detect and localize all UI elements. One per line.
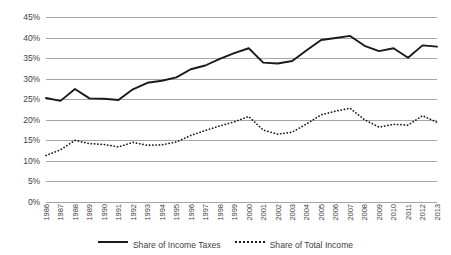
y-tick-label-35: 35%: [23, 54, 40, 63]
y-tick-label-20: 20%: [23, 116, 40, 125]
line-chart: 45%40%35%30%25%20%15%10%5%0% 19861987198…: [0, 0, 451, 255]
x-tick-label-1988: 1988: [72, 204, 80, 221]
legend-label: Share of Income Taxes: [133, 241, 221, 250]
x-tick-label-1996: 1996: [188, 204, 196, 221]
x-tick-label-2008: 2008: [361, 204, 369, 221]
x-tick-label-2006: 2006: [332, 204, 340, 221]
x-tick-label-1986: 1986: [43, 204, 51, 221]
series-line-share-of-income-taxes: [46, 36, 437, 101]
series-line-share-of-total-income: [46, 108, 437, 155]
y-tick-label-45: 45%: [23, 13, 40, 22]
x-tick-label-1993: 1993: [144, 204, 152, 221]
legend-label: Share of Total Income: [270, 241, 353, 250]
x-tick-label-2003: 2003: [289, 204, 297, 221]
x-axis-labels: 1986198719881989199019911992199319941995…: [46, 204, 437, 238]
x-tick-label-2009: 2009: [376, 204, 384, 221]
y-tick-label-10: 10%: [23, 157, 40, 166]
x-tick-label-2001: 2001: [260, 204, 268, 221]
solid-line-swatch-icon: [98, 241, 128, 252]
series-layer: [46, 17, 437, 202]
x-tick-label-1994: 1994: [159, 204, 167, 221]
x-tick-label-2004: 2004: [303, 204, 311, 221]
y-tick-label-0: 0%: [28, 198, 40, 207]
legend-item-share-of-total-income[interactable]: Share of Total Income: [235, 240, 353, 252]
x-tick-label-2010: 2010: [390, 204, 398, 221]
x-tick-label-1997: 1997: [202, 204, 210, 221]
x-tick-label-1998: 1998: [217, 204, 225, 221]
x-tick-label-1995: 1995: [173, 204, 181, 221]
x-tick-label-1991: 1991: [115, 204, 123, 221]
y-tick-label-25: 25%: [23, 95, 40, 104]
chart-legend: Share of Income TaxesShare of Total Inco…: [0, 236, 451, 255]
x-tick-label-2005: 2005: [318, 204, 326, 221]
legend-item-share-of-income-taxes[interactable]: Share of Income Taxes: [98, 240, 221, 252]
x-tick-label-1987: 1987: [57, 204, 65, 221]
x-tick-label-1989: 1989: [86, 204, 94, 221]
dotted-line-swatch-icon: [235, 241, 265, 252]
y-tick-label-40: 40%: [23, 34, 40, 43]
y-axis-labels: 45%40%35%30%25%20%15%10%5%0%: [0, 0, 44, 255]
x-tick-label-1999: 1999: [231, 204, 239, 221]
x-tick-label-2002: 2002: [275, 204, 283, 221]
x-tick-label-2013: 2013: [434, 204, 442, 221]
y-tick-label-30: 30%: [23, 75, 40, 84]
x-tick-label-1990: 1990: [101, 204, 109, 221]
x-tick-label-2000: 2000: [246, 204, 254, 221]
x-tick-label-1992: 1992: [130, 204, 138, 221]
x-tick-label-2012: 2012: [419, 204, 427, 221]
y-tick-label-5: 5%: [28, 177, 40, 186]
x-tick-label-2011: 2011: [405, 204, 413, 220]
x-tick-label-2007: 2007: [347, 204, 355, 221]
plot-area: [46, 17, 437, 202]
gridline-0: [46, 202, 437, 203]
y-tick-label-15: 15%: [23, 136, 40, 145]
